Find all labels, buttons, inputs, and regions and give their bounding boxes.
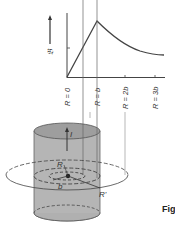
field-graph: 𝔅 R = 0 R = b R = 2b R = 3b [46,13,165,109]
magnetic-field-diagram: 𝔅 R = 0 R = b R = 2b R = 3b I R b R' Fig [0,0,175,230]
radius-label-r: R [57,160,63,169]
figure-caption: Fig [162,204,175,214]
tick-label-r2b: R = 2b [121,87,130,109]
tick-label-rb: R = b [93,88,102,106]
field-curve [67,21,164,77]
tick-label-r3b: R = 3b [151,87,160,109]
radius-label-b: b [58,182,63,191]
tick-label-r0: R = 0 [63,87,72,106]
y-axis-label: 𝔅 [46,48,55,55]
radius-label-r-prime: R' [99,190,107,199]
